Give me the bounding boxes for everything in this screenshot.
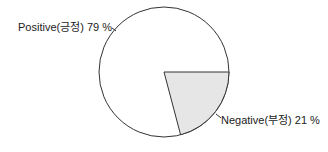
label-negative: Negative(부정) 21 % <box>221 114 320 126</box>
label-positive: Positive(긍정) 79 % <box>18 21 112 33</box>
